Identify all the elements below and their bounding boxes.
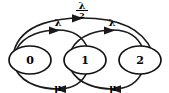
edge-0-to-1-arrowhead	[49, 26, 60, 34]
node-state-0-label: 0	[26, 54, 34, 67]
node-state-2[interactable]: 2	[119, 46, 161, 74]
edge-1-to-0-label: μ	[54, 82, 61, 93]
node-state-1[interactable]: 1	[64, 46, 106, 74]
node-state-0[interactable]: 0	[9, 46, 51, 74]
edge-1-to-2-label: λ	[108, 17, 115, 28]
node-state-1-label: 1	[81, 54, 89, 67]
edge-0-to-2: λ 2	[14, 0, 152, 51]
diagram-svg: λ 2 λ λ μ μ	[0, 0, 169, 93]
edge-2-to-1-label: μ	[109, 82, 116, 93]
state-transition-diagram: λ 2 λ λ μ μ	[0, 0, 169, 93]
edge-0-to-2-label-denominator: 2	[79, 10, 85, 20]
edge-1-to-2: λ	[71, 17, 143, 51]
node-state-2-label: 2	[136, 54, 144, 67]
edge-0-to-1-label: λ	[54, 17, 61, 28]
edge-1-to-2-arrowhead	[104, 26, 115, 34]
